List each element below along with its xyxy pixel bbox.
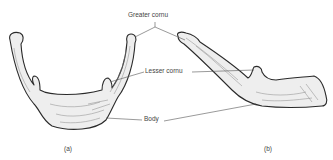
hyoid-anterior-view [10, 32, 136, 129]
leader-greater-cornu [135, 22, 185, 40]
label-lesser-cornu: Lesser cornu [145, 68, 183, 75]
diagram-canvas [0, 0, 333, 160]
hyoid-a-outline [10, 32, 136, 129]
panel-caption-b: (b) [264, 146, 272, 153]
label-body: Body [144, 116, 159, 123]
panel-caption-a: (a) [64, 146, 72, 153]
hyoid-bone-diagram: Greater cornu Lesser cornu Body (a) (b) [0, 0, 333, 160]
leader-body [106, 104, 256, 121]
label-greater-cornu: Greater cornu [128, 12, 168, 19]
